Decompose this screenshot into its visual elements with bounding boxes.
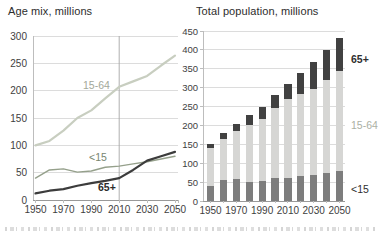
x-tick-label: 2010 bbox=[108, 204, 131, 215]
x-tick-label: 2050 bbox=[164, 204, 187, 215]
bar-segment-15-64 bbox=[284, 99, 291, 177]
x-tick-label: 2030 bbox=[136, 204, 159, 215]
bar-segment-65+ bbox=[284, 84, 291, 99]
cropped-caption-strip bbox=[5, 227, 377, 231]
bar-segment-<15 bbox=[207, 186, 214, 201]
x-tick-label: 1990 bbox=[80, 204, 103, 215]
y-tick-label: 200 bbox=[182, 120, 198, 131]
x-tick-label: 1950 bbox=[199, 205, 222, 216]
bar-segment-65+ bbox=[207, 144, 214, 149]
bar-segment-<15 bbox=[259, 181, 266, 201]
bar-segment-15-64 bbox=[336, 71, 343, 171]
x-tick-label: 1950 bbox=[24, 204, 47, 215]
y-tick-label: 100 bbox=[10, 140, 27, 151]
bar-segment-65+ bbox=[246, 115, 253, 125]
series-label-under-15: <15 bbox=[89, 151, 107, 163]
legend-15-64: 15-64 bbox=[351, 119, 378, 131]
y-tick-label: 150 bbox=[182, 139, 198, 150]
y-tick-label: 250 bbox=[182, 101, 198, 112]
y-tick-label: 400 bbox=[182, 44, 198, 55]
y-tick-label: 150 bbox=[10, 113, 27, 124]
x-tick-label: 2010 bbox=[277, 205, 300, 216]
legend-under-15: <15 bbox=[351, 183, 369, 195]
y-tick-label: 300 bbox=[10, 31, 27, 42]
bar-segment-15-64 bbox=[259, 119, 266, 181]
bar-segment-65+ bbox=[323, 50, 330, 80]
bar-segment-15-64 bbox=[220, 139, 227, 180]
charts-canvas: 0501001502002503001950197019902010203020… bbox=[0, 0, 382, 232]
x-tick-label: 2050 bbox=[328, 205, 351, 216]
bar-segment-65+ bbox=[310, 62, 317, 89]
bar-segment-65+ bbox=[336, 38, 343, 71]
x-tick-label: 2030 bbox=[303, 205, 326, 216]
bar-segment-65+ bbox=[271, 95, 278, 108]
y-tick-label: 200 bbox=[10, 85, 27, 96]
x-tick-label: 1970 bbox=[225, 205, 248, 216]
bar-segment-<15 bbox=[297, 176, 304, 201]
bar-segment-65+ bbox=[220, 133, 227, 139]
y-tick-label: 100 bbox=[182, 158, 198, 169]
y-tick-label: 0 bbox=[193, 196, 198, 207]
y-tick-label: 250 bbox=[10, 58, 27, 69]
y-tick-label: 50 bbox=[187, 177, 198, 188]
series-label-65-plus: 65+ bbox=[98, 181, 116, 193]
bar-segment-<15 bbox=[323, 173, 330, 201]
line-series-15-64 bbox=[36, 56, 176, 146]
bar-segment-15-64 bbox=[233, 131, 240, 179]
bar-segment-<15 bbox=[220, 180, 227, 201]
bar-segment-<15 bbox=[271, 178, 278, 201]
bar-segment-<15 bbox=[284, 178, 291, 201]
bar-segment-15-64 bbox=[297, 94, 304, 176]
series-label-15-64: 15-64 bbox=[83, 79, 110, 91]
y-tick-label: 450 bbox=[182, 26, 198, 37]
y-tick-label: 350 bbox=[182, 63, 198, 74]
legend-65-plus: 65+ bbox=[351, 53, 369, 65]
bar-segment-65+ bbox=[297, 73, 304, 94]
bar-segment-65+ bbox=[233, 124, 240, 132]
bar-segment-15-64 bbox=[310, 89, 317, 175]
bar-segment-<15 bbox=[336, 171, 343, 201]
bar-segment-15-64 bbox=[246, 125, 253, 182]
x-tick-label: 1990 bbox=[251, 205, 274, 216]
bar-segment-15-64 bbox=[207, 148, 214, 186]
bar-segment-<15 bbox=[233, 179, 240, 201]
y-tick-label: 300 bbox=[182, 82, 198, 93]
total-population-chart: 0501001502002503003504004501950197019902… bbox=[182, 26, 351, 216]
bar-segment-65+ bbox=[259, 107, 266, 119]
bar-segment-15-64 bbox=[271, 108, 278, 178]
bar-segment-<15 bbox=[246, 182, 253, 201]
bar-segment-15-64 bbox=[323, 80, 330, 173]
bar-segment-<15 bbox=[310, 175, 317, 201]
population-figure: Age mix, millions Total population, mill… bbox=[0, 0, 382, 232]
y-tick-label: 50 bbox=[16, 167, 28, 178]
x-tick-label: 1970 bbox=[52, 204, 75, 215]
